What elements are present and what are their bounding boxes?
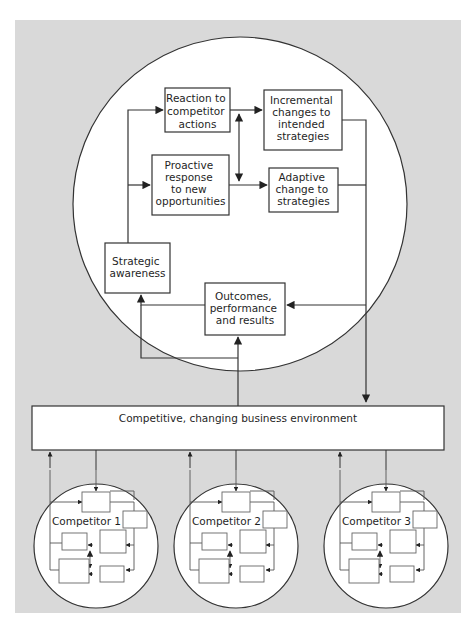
competitor-2-label: Competitor 2	[192, 515, 261, 527]
competitor-3: Competitor 3	[324, 450, 448, 608]
svg-text:Competitive, changing business: Competitive, changing business environme…	[119, 412, 357, 424]
box-incremental-changes: Incremental changes to intended strategi…	[264, 90, 342, 150]
svg-text:Outcomes, performance: Outcomes, performance and results	[210, 290, 281, 326]
competitor-2: Competitor 2	[174, 450, 298, 608]
svg-text:Adaptive change to: Adaptive change to strategies	[276, 171, 332, 207]
box-adaptive-change: Adaptive change to strategies	[269, 168, 338, 212]
box-reaction-to-competitor-actions: Reaction to competitor actions	[165, 88, 230, 132]
business-environment-bar: Competitive, changing business environme…	[32, 406, 444, 450]
competitor-1: Competitor 1	[34, 450, 158, 608]
box-proactive-response: Proactive response to new opportunities	[152, 155, 229, 215]
box-strategic-awareness: Strategic awareness	[105, 243, 170, 293]
competitor-1-label: Competitor 1	[52, 515, 121, 527]
svg-text:Incremental changes to: Incremental changes to intended strategi…	[270, 94, 336, 142]
box-outcomes-performance-results: Outcomes, performance and results	[205, 283, 285, 335]
svg-text:Strategic awareness: Strategic awareness	[109, 255, 165, 279]
strategy-cycle-diagram: Reaction to competitor actions Increment…	[0, 0, 472, 623]
competitor-3-label: Competitor 3	[342, 515, 411, 527]
